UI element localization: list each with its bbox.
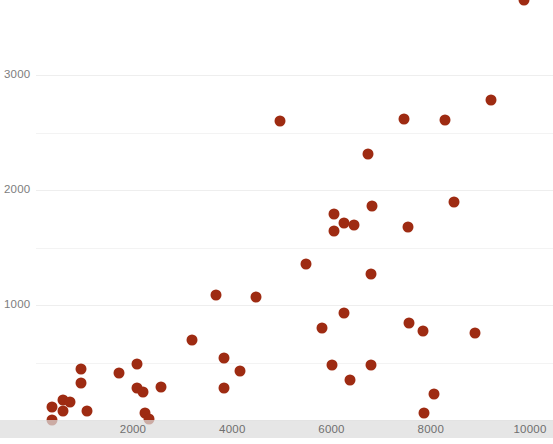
scatter-point (251, 291, 262, 302)
scatter-point (132, 358, 143, 369)
scatter-point (469, 327, 480, 338)
x-tick-label-6000: 6000 (318, 424, 344, 436)
plot-area: 100020003000 200040006000800010000 (0, 0, 553, 444)
scatter-point (75, 378, 86, 389)
scatter-point (275, 116, 286, 127)
scatter-point (428, 388, 439, 399)
x-axis-band (0, 420, 553, 438)
y-tick-label-1000: 1000 (4, 299, 30, 311)
scatter-point (403, 318, 414, 329)
scatter-point (46, 402, 57, 413)
x-tick-label-4000: 4000 (219, 424, 245, 436)
gridline-1000 (36, 305, 553, 306)
scatter-point (440, 114, 451, 125)
y-tick-label-2000: 2000 (4, 184, 30, 196)
scatter-point (417, 326, 428, 337)
scatter-point (155, 381, 166, 392)
scatter-point (187, 334, 198, 345)
scatter-point (339, 308, 350, 319)
scatter-point (81, 405, 92, 416)
gridline-500 (36, 363, 553, 364)
scatter-chart: 100020003000 200040006000800010000 (0, 0, 553, 444)
y-tick-label-3000: 3000 (4, 69, 30, 81)
scatter-point (366, 201, 377, 212)
scatter-point (418, 408, 429, 419)
scatter-point (365, 268, 376, 279)
gridline-2500 (36, 133, 553, 134)
scatter-point (328, 226, 339, 237)
scatter-point (219, 382, 230, 393)
scatter-point (211, 289, 222, 300)
scatter-point (137, 387, 148, 398)
scatter-point (75, 364, 86, 375)
x-tick-label-8000: 8000 (418, 424, 444, 436)
scatter-point (300, 258, 311, 269)
scatter-point (448, 196, 459, 207)
scatter-point (345, 374, 356, 385)
scatter-point (58, 405, 69, 416)
scatter-point (326, 359, 337, 370)
scatter-point (219, 352, 230, 363)
x-tick-label-2000: 2000 (120, 424, 146, 436)
gridline-2000 (36, 190, 553, 191)
scatter-point (402, 221, 413, 232)
scatter-point (485, 95, 496, 106)
scatter-point (235, 365, 246, 376)
scatter-point (398, 113, 409, 124)
scatter-point (362, 149, 373, 160)
scatter-point (349, 219, 360, 230)
gridline-3000 (36, 75, 553, 76)
scatter-point (519, 0, 530, 6)
scatter-point (328, 209, 339, 220)
gridline-1500 (36, 248, 553, 249)
scatter-point (114, 367, 125, 378)
scatter-point (316, 323, 327, 334)
x-tick-label-10000: 10000 (514, 424, 547, 436)
scatter-point (365, 359, 376, 370)
